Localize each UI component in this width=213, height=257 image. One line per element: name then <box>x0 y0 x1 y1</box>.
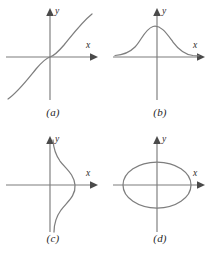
x-axis-label-b: x <box>192 40 198 50</box>
y-axis-arrow-d <box>153 136 161 144</box>
x-axis-arrow-a <box>90 53 98 61</box>
y-axis-label-a: y <box>54 6 60 16</box>
y-axis-label-c: y <box>54 134 60 144</box>
graph-b: x y <box>107 0 213 106</box>
x-axis-label-a: x <box>85 40 91 50</box>
x-axis-arrow-c <box>90 181 98 189</box>
y-axis-label-b: y <box>161 6 167 16</box>
x-axis-arrow-d <box>197 181 205 189</box>
caption-a: (a) <box>0 106 106 118</box>
x-axis-label-c: x <box>85 168 91 178</box>
y-axis-arrow-b <box>153 8 161 16</box>
x-axis-label-d: x <box>192 168 198 178</box>
caption-c: (c) <box>0 232 106 244</box>
vertical-line-test-figure: x y x y x y <box>0 0 213 257</box>
y-axis-arrow-a <box>46 8 54 16</box>
curve-sideways-gaussian-c <box>53 140 75 232</box>
caption-b: (b) <box>107 106 213 118</box>
y-axis-label-d: y <box>161 134 167 144</box>
graph-a: x y <box>0 0 106 106</box>
caption-d: (d) <box>107 232 213 244</box>
x-axis-arrow-b <box>197 53 205 61</box>
